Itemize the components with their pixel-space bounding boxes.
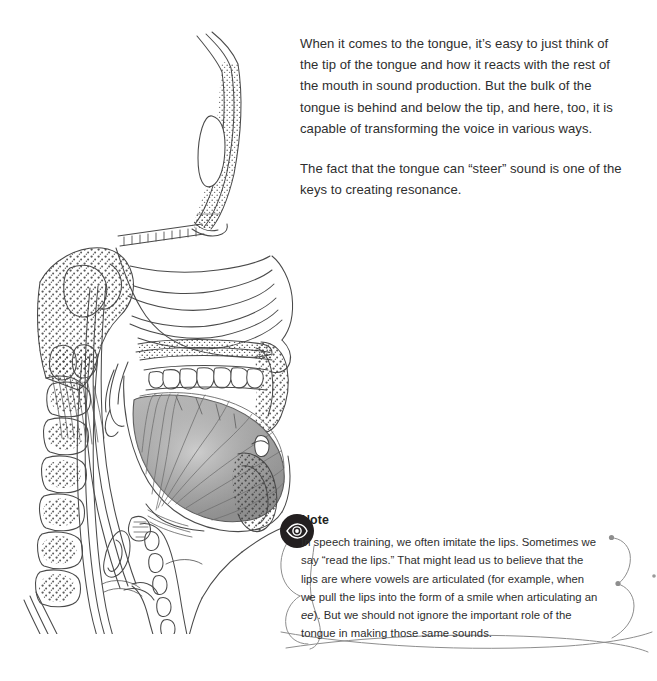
right-curl-upper <box>612 538 630 584</box>
middle-turbinate-lower <box>132 298 276 327</box>
submandibular-contour <box>202 552 242 598</box>
superior-turbinate-lower <box>134 270 272 293</box>
spinal-canal-anterior <box>85 354 109 634</box>
lower-incisor <box>255 435 269 456</box>
tendril-dot-top-right <box>609 535 614 540</box>
cribriform-upper-line <box>118 224 202 236</box>
note-text-after-italic: ). But we should not ignore the importan… <box>301 609 572 639</box>
superior-turbinate <box>130 256 270 272</box>
right-curl-lower <box>612 584 634 638</box>
note-title: Note <box>301 512 601 528</box>
middle-turbinate <box>128 284 274 310</box>
page-root: When it comes to the tongue, it’s easy t… <box>0 0 657 681</box>
body-copy: When it comes to the tongue, it’s easy t… <box>300 33 628 200</box>
note-text: In speech training, we often imitate the… <box>301 533 601 643</box>
note-text-before-italic: In speech training, we often imitate the… <box>301 536 597 603</box>
tendril-dot-mid-right <box>615 581 620 586</box>
note-italic-word: ee <box>301 609 314 621</box>
cribriform-lower-line <box>120 234 204 246</box>
anterior-neck-contour <box>188 598 202 634</box>
anatomy-illustration-svg <box>6 24 306 634</box>
thyroid-cartilage-hint <box>166 560 202 565</box>
note-body: Note In speech training, we often imitat… <box>301 512 601 643</box>
sagittal-head-cross-section <box>6 24 306 634</box>
spinal-cord-posterior <box>93 354 117 634</box>
note-callout: Note In speech training, we often imitat… <box>268 506 657 666</box>
body-paragraph-2: The fact that the tongue can “steer” sou… <box>300 158 628 200</box>
esophagus-opening <box>102 581 140 588</box>
trachea-posterior-wall <box>132 586 156 634</box>
nose-bridge-profile <box>272 256 293 340</box>
soft-palate-anterior <box>118 362 128 404</box>
body-paragraph-1: When it comes to the tongue, it’s easy t… <box>300 33 628 139</box>
upper-teeth <box>149 368 263 389</box>
soft-palate-posterior <box>109 364 124 426</box>
anatomy-outlines <box>24 32 294 634</box>
tendril-dot-far-right <box>652 574 656 578</box>
tracheal-cartilage-rings <box>145 531 175 634</box>
